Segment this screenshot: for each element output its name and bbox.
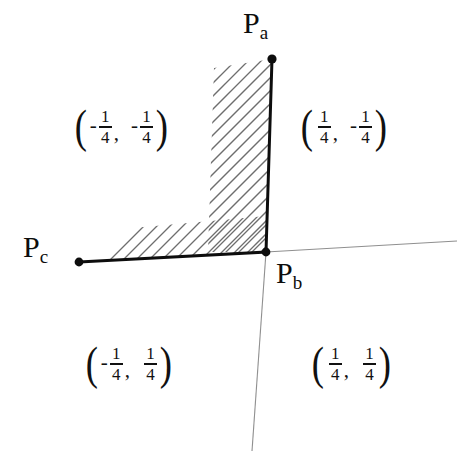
point-dot-pa xyxy=(267,54,276,63)
open-paren: ( xyxy=(301,108,313,145)
x-numerator: 1 xyxy=(99,108,112,126)
point-label-pc-base: P xyxy=(23,230,40,263)
y-denominator: 4 xyxy=(363,365,376,383)
axis-vertical xyxy=(252,252,266,451)
coord-label-top-left: ( - 1 4 , - 1 4 ) xyxy=(73,108,170,146)
x-fraction: 1 4 xyxy=(329,345,342,383)
point-label-pa-base: P xyxy=(243,6,260,39)
point-label-pb-base: P xyxy=(276,256,293,289)
x-fraction: 1 4 xyxy=(99,108,112,146)
y-numerator: 1 xyxy=(359,108,372,126)
x-numerator: 1 xyxy=(318,108,331,126)
y-denominator: 4 xyxy=(140,128,153,146)
coord-label-top-right: ( 1 4 , - 1 4 ) xyxy=(299,108,389,146)
open-paren: ( xyxy=(312,345,324,382)
coord-label-bottom-right: ( 1 4 , 1 4 ) xyxy=(310,345,393,383)
hatch-vertical-region xyxy=(150,0,310,419)
y-numerator: 1 xyxy=(363,345,376,363)
point-dot-pc xyxy=(75,258,84,267)
y-fraction: 1 4 xyxy=(144,345,157,383)
x-numerator: 1 xyxy=(110,345,123,363)
point-label-pc-subscript: c xyxy=(40,246,48,267)
x-denominator: 4 xyxy=(110,365,123,383)
y-denominator: 4 xyxy=(359,128,372,146)
point-label-pa: Pa xyxy=(243,8,268,42)
x-sign: - xyxy=(89,113,98,138)
open-paren: ( xyxy=(75,108,87,145)
x-fraction: 1 4 xyxy=(318,108,331,146)
y-denominator: 4 xyxy=(144,365,157,383)
axis-horizontal xyxy=(266,241,457,252)
y-sign: - xyxy=(130,113,139,138)
x-fraction: 1 4 xyxy=(110,345,123,383)
y-fraction: 1 4 xyxy=(359,108,372,146)
coord-comma: , xyxy=(343,358,353,383)
x-denominator: 4 xyxy=(318,128,331,146)
coord-label-bottom-left: ( - 1 4 , 1 4 ) xyxy=(84,345,174,383)
open-paren: ( xyxy=(86,345,98,382)
y-fraction: 1 4 xyxy=(140,108,153,146)
x-denominator: 4 xyxy=(99,128,112,146)
point-dot-pb xyxy=(262,248,271,257)
point-label-pb: Pb xyxy=(276,258,302,292)
diagram-svg xyxy=(0,0,468,453)
coord-comma: , xyxy=(113,121,123,146)
coord-comma: , xyxy=(332,121,342,146)
close-paren: ) xyxy=(375,108,387,145)
close-paren: ) xyxy=(379,345,391,382)
coord-comma: , xyxy=(124,358,134,383)
y-numerator: 1 xyxy=(144,345,157,363)
y-sign: - xyxy=(349,113,358,138)
x-sign: - xyxy=(100,350,109,375)
point-label-pb-subscript: b xyxy=(293,272,303,293)
close-paren: ) xyxy=(156,108,168,145)
point-label-pa-subscript: a xyxy=(260,22,268,43)
figure-canvas: Pa Pb Pc ( - 1 4 , - 1 4 ) ( 1 4 xyxy=(0,0,468,453)
close-paren: ) xyxy=(160,345,172,382)
point-label-pc: Pc xyxy=(23,232,48,266)
y-fraction: 1 4 xyxy=(363,345,376,383)
y-numerator: 1 xyxy=(140,108,153,126)
x-denominator: 4 xyxy=(329,365,342,383)
x-numerator: 1 xyxy=(329,345,342,363)
